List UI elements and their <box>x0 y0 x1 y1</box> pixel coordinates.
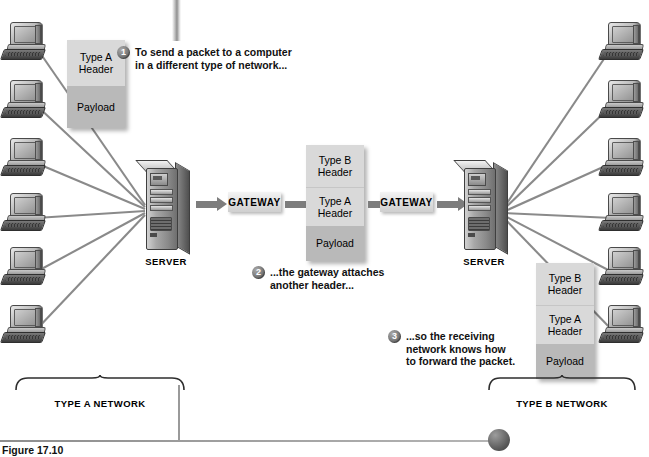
left-server-icon <box>140 160 192 252</box>
right-network-label: TYPE B NETWORK <box>487 398 637 409</box>
list-item <box>2 247 48 287</box>
list-item <box>2 305 48 345</box>
callout-2: 2 ...the gateway attaches another header… <box>252 266 402 291</box>
packet-segment: Payload <box>306 226 364 261</box>
keyboard-icon <box>598 49 644 60</box>
gateway-1: GATEWAY <box>228 192 281 212</box>
packet-segment: Type B Header <box>536 263 594 305</box>
keyboard-icon <box>598 332 644 343</box>
caption-bullet-sphere <box>488 429 510 451</box>
keyboard-icon <box>598 274 644 285</box>
delivered-packet: Type B Header Type A Header Payload <box>536 263 594 379</box>
right-network-brace <box>487 374 637 392</box>
gateway-label: GATEWAY <box>380 197 432 208</box>
callout-number-badge: 2 <box>252 266 265 279</box>
figure-canvas: Type A Header Payload 1 To send a packet… <box>0 0 649 457</box>
type-b-encapsulated-packet: Type B Header Type A Header Payload <box>306 145 364 261</box>
packet-segment-label: Type A Header <box>306 195 364 220</box>
flow-arrow <box>285 201 307 208</box>
callout-1: 1 To send a packet to a computer in a di… <box>117 46 317 71</box>
callout-3: 3 ...so the receiving network knows how … <box>388 330 528 368</box>
left-network-label: TYPE A NETWORK <box>14 398 186 409</box>
keyboard-icon <box>0 332 46 343</box>
packet-segment-label: Type B Header <box>536 272 594 297</box>
callout-number-badge: 1 <box>117 46 130 59</box>
packet-segment-label: Payload <box>546 355 584 368</box>
packet-segment-label: Payload <box>316 237 354 250</box>
gateway-label: GATEWAY <box>228 197 280 208</box>
list-item <box>600 80 646 120</box>
flow-arrow <box>437 201 459 208</box>
keyboard-icon <box>0 165 46 176</box>
keyboard-icon <box>0 274 46 285</box>
packet-segment: Type A Header <box>306 187 364 226</box>
packet-segment: Payload <box>67 86 125 128</box>
callout-text: ...so the receiving network knows how to… <box>406 330 515 368</box>
list-item <box>600 138 646 178</box>
list-item <box>2 80 48 120</box>
keyboard-icon <box>0 107 46 118</box>
packet-segment-label: Type A Header <box>536 313 594 338</box>
right-server-label: SERVER <box>452 256 516 267</box>
list-item <box>2 138 48 178</box>
list-item <box>2 193 48 233</box>
caption-leader-line <box>178 385 180 441</box>
packet-segment-label: Type B Header <box>306 154 364 179</box>
keyboard-icon <box>598 107 644 118</box>
keyboard-icon <box>598 220 644 231</box>
packet-segment: Type B Header <box>306 145 364 187</box>
right-server-icon <box>458 160 510 252</box>
list-item <box>600 247 646 287</box>
keyboard-icon <box>598 165 644 176</box>
callout-number-badge: 3 <box>388 330 401 343</box>
figure-caption: Figure 17.10 <box>2 444 63 456</box>
gateway-2: GATEWAY <box>380 192 433 212</box>
callout-text: To send a packet to a computer in a diff… <box>135 46 292 71</box>
packet-segment-label: Payload <box>77 101 115 114</box>
callout-text: ...the gateway attaches another header..… <box>270 266 384 291</box>
list-item <box>600 22 646 62</box>
list-item <box>600 193 646 233</box>
list-item <box>2 22 48 62</box>
caption-rule <box>0 440 496 442</box>
keyboard-icon <box>0 49 46 60</box>
keyboard-icon <box>0 220 46 231</box>
packet-segment: Type A Header <box>536 305 594 344</box>
left-server-label: SERVER <box>134 256 198 267</box>
flow-arrow <box>196 201 218 208</box>
left-network-brace <box>14 374 186 392</box>
list-item <box>600 305 646 345</box>
